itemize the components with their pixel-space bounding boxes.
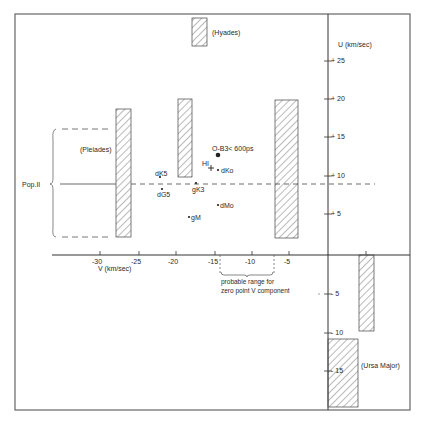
u-tick-label: - 15	[331, 367, 343, 374]
pop2-label: Pop.II	[22, 181, 40, 188]
pop2-brace	[50, 129, 56, 237]
dk5-label: dK5	[155, 170, 167, 177]
u-tick-label: + 5	[331, 210, 341, 217]
u-tick-label: - 10	[331, 329, 343, 336]
v-axis-ticks	[100, 251, 366, 255]
gm-label: gM	[191, 214, 201, 221]
ob3-label: O-B3< 600ps	[212, 145, 253, 152]
u-tick-label: + 10	[331, 172, 345, 179]
point-dmo	[217, 204, 219, 206]
region-v-minus-5	[275, 100, 298, 238]
point-dko	[217, 169, 219, 171]
u-axis-label: U (km/sec)	[338, 41, 372, 48]
zero-point-caption-line1: probable range for	[221, 279, 274, 286]
zero-point-caption-line2: zero point V component	[221, 288, 290, 295]
v-axis-label: V (km/sec)	[98, 265, 131, 272]
v-tick-label: -30	[92, 258, 102, 265]
u-tick-label: + 25	[331, 57, 345, 64]
hyades-label: (Hyades)	[212, 29, 240, 36]
v-tick-label: -15	[208, 258, 218, 265]
v-tick-label: -25	[131, 258, 141, 265]
region-below-axis	[359, 255, 374, 331]
v-tick-label: -20	[168, 258, 178, 265]
gk3-label: gK3	[192, 186, 204, 193]
u-tick-label: + 20	[331, 95, 345, 102]
zero-point-brace	[221, 272, 273, 277]
point-gk3	[195, 182, 197, 184]
v-tick-label: -10	[245, 258, 255, 265]
point-gm	[188, 216, 190, 218]
velocity-diagram	[0, 0, 423, 427]
dmo-label: dMo	[220, 202, 234, 209]
point-dg5	[161, 188, 163, 190]
ursa-major-label: (Ursa Major)	[361, 362, 400, 369]
point-ob3	[216, 153, 221, 158]
v-tick-label: -5	[284, 258, 290, 265]
pleiades-region	[116, 109, 131, 237]
hyades-region	[192, 18, 207, 46]
dg5-label: dG5	[157, 191, 170, 198]
hi-label: HI	[202, 160, 209, 167]
pleiades-label: (Pleiades)	[80, 146, 112, 153]
u-tick-label: - 5	[331, 290, 339, 297]
dko-label: dKo	[221, 167, 233, 174]
u-tick-label: + 15	[331, 133, 345, 140]
region-v-minus-19	[178, 99, 192, 177]
